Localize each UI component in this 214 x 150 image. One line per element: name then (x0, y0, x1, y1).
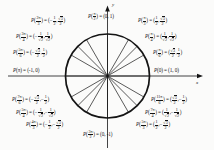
point-label-3pi-over-4: P(3π4) = (−1√2,1√2) (16, 32, 52, 42)
equals-sign: = (99, 13, 102, 19)
x-axis-label: x (196, 80, 198, 85)
point-label-5pi-over-3: P(5π3) = (12,−√32) (136, 120, 170, 130)
coord-close: ) (51, 33, 53, 39)
coord-comma: , (104, 131, 105, 137)
point-label-3pi-over-2: P(3π2) = (0, -1) (83, 130, 112, 139)
coord-close: ) (111, 131, 113, 137)
coord-close: ) (168, 121, 170, 127)
paren-close: ) (146, 121, 148, 127)
fraction-5pi-4: 5π4 (21, 108, 26, 117)
coord-y-half: 12 (182, 95, 185, 104)
equals-sign: = (149, 17, 152, 23)
point-label-5pi-over-6: P(5π6) = (−√32,12) (13, 48, 47, 58)
fraction-5pi-6: 5π6 (18, 48, 23, 57)
coord-close: ) (47, 96, 49, 102)
equals-sign: = (29, 33, 32, 39)
coord-comma: , (107, 13, 108, 19)
coord-x-half: 12 (155, 16, 158, 25)
equals-sign: = (158, 109, 161, 115)
coord-y-half: 12 (44, 95, 47, 104)
coord-x-sqrt3-2: √32 (35, 48, 40, 58)
fraction-pi-3: π3 (143, 16, 146, 25)
coord-close: ) (165, 17, 167, 23)
fraction-11pi-6: 11π6 (156, 95, 163, 104)
point-label-4pi-over-3: P(4π3) = (−12,−√32) (26, 120, 63, 130)
coord-close: ) (38, 67, 40, 73)
equals-sign: = (26, 49, 29, 55)
coord-x-half: 12 (53, 16, 56, 25)
point-label-11pi-over-6: P(11π6) = (√32,−12) (151, 95, 187, 105)
equals-sign: = (44, 17, 47, 23)
point-label-pi-over-4: P(π4) = (1√2,1√2) (145, 32, 176, 42)
point-label-2pi-over-3: P(2π3) = (−12,√32) (31, 16, 65, 26)
paren-close: ) (36, 121, 38, 127)
paren-close: ) (161, 67, 163, 73)
point-label-pi: P(π) = (-1, 0) (13, 68, 39, 73)
point-label-7pi-over-4: P(7π4) = (1√2,−1√2) (145, 108, 181, 118)
coord-close: ) (185, 96, 187, 102)
coord-close: ) (180, 109, 182, 115)
fraction-pi-6: π6 (158, 48, 161, 57)
coord-x-1-sqrt2: 1√2 (164, 108, 169, 118)
point-label-pi-over-6: P(π6) = (√32,12) (153, 48, 182, 58)
coord-x-1-sqrt2: 1√2 (38, 108, 43, 118)
point-label-zero: P(0) = (1, 0) (154, 68, 179, 73)
coord-y-sqrt3-2: √32 (58, 16, 63, 26)
coord-close: ) (112, 13, 114, 19)
coord-y-1-sqrt2: 1√2 (48, 108, 53, 118)
unit-circle-figure: y x P(π2) = (0, 1) P(π3) = (12,√32) P(π4… (0, 0, 214, 150)
paren-close: ) (146, 17, 148, 23)
fraction-2pi-3: 2π3 (36, 16, 41, 25)
equals-sign: = (164, 67, 167, 73)
coord-x-sqrt3-2: √32 (172, 95, 177, 105)
fraction-7pi-6: 7π6 (17, 95, 22, 104)
coord-y-1-sqrt2: 1√2 (174, 108, 179, 118)
point-label-7pi-over-6: P(7π6) = (−√32,−12) (12, 95, 49, 105)
paren-close: ) (20, 67, 22, 73)
coord-comma: , (33, 67, 34, 73)
equals-sign: = (96, 131, 99, 137)
coord-x-1-sqrt2: 1√2 (162, 32, 167, 42)
equals-sign: = (23, 67, 26, 73)
coord-close: ) (45, 49, 47, 55)
paren-close: ) (23, 49, 25, 55)
fraction-3pi-2: 3π2 (88, 130, 93, 139)
fraction-pi-2: π2 (93, 12, 96, 21)
point-label-pi-over-2: P(π2) = (0, 1) (88, 12, 114, 21)
coord-x-sqrt3-2: √32 (170, 48, 175, 58)
coord-comma: , (172, 67, 173, 73)
coord-y-sqrt3-2: √32 (56, 120, 61, 130)
equals-sign: = (156, 33, 159, 39)
fraction-pi-4: π4 (150, 32, 153, 41)
coord-x-half: 12 (155, 120, 158, 129)
coord-x-sqrt3-2: √32 (34, 95, 39, 105)
coord-close: ) (54, 109, 56, 115)
coord-y-half: 12 (177, 48, 180, 57)
coord-y-half: 12 (42, 48, 45, 57)
paren-close: ) (26, 33, 28, 39)
point-label-5pi-over-4: P(5π4) = (−1√2,−1√2) (16, 108, 55, 118)
equals-sign: = (166, 96, 169, 102)
paren-close: ) (41, 17, 43, 23)
paren-close: ) (155, 109, 157, 115)
equals-sign: = (29, 109, 32, 115)
paren-close: ) (93, 131, 95, 137)
equals-sign: = (164, 49, 167, 55)
coord-y-sqrt3-2: √32 (160, 16, 165, 26)
coord-close: ) (63, 17, 65, 23)
coord-x-half: 12 (48, 120, 51, 129)
y-axis-label: y (112, 2, 114, 7)
point-label-pi-over-3: P(π3) = (12,√32) (138, 16, 167, 26)
paren-close: ) (163, 96, 165, 102)
fraction-4pi-3: 4π3 (31, 120, 36, 129)
coord-x-1-sqrt2: 1√2 (38, 32, 43, 42)
fraction-5pi-3: 5π3 (141, 120, 146, 129)
equals-sign: = (149, 121, 152, 127)
paren-close: ) (161, 49, 163, 55)
paren-close: ) (153, 33, 155, 39)
coord-close: ) (180, 49, 182, 55)
equals-sign: = (39, 121, 42, 127)
coord-y-sqrt3-2: √32 (163, 120, 168, 130)
coord-close: ) (61, 121, 63, 127)
fraction-3pi-4: 3π4 (21, 32, 26, 41)
